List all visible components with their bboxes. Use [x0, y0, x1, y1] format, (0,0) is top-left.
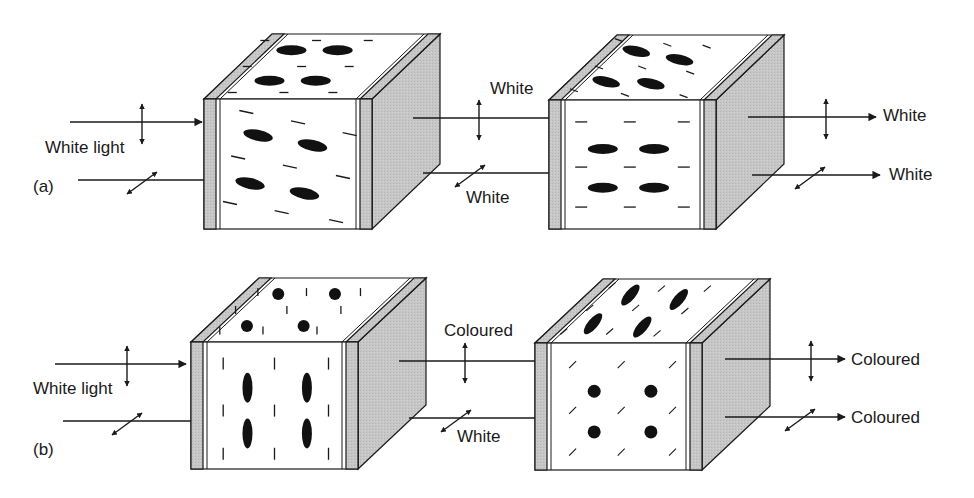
panel-b-mid-top-label: Coloured	[444, 322, 513, 339]
lc-cell-cube-b-2	[535, 279, 770, 470]
light-beam-b-2	[63, 413, 191, 435]
panel-b-output-top-label: Coloured	[851, 351, 920, 368]
front-plate-left	[535, 343, 547, 470]
panel-a-output-bottom-label: White	[889, 166, 932, 183]
panel-b-output-bottom-label: Coloured	[851, 409, 920, 426]
diagonal-polarization-icon	[455, 165, 485, 187]
panel-a-output-top-label: White	[883, 107, 926, 124]
panel-b-label: (b)	[33, 441, 54, 458]
diagonal-polarization-icon	[785, 409, 815, 431]
front-plate-right	[346, 342, 358, 469]
light-beam-a-4	[423, 165, 549, 187]
panel-b-coloured-mode	[55, 278, 845, 470]
diagonal-polarization-icon	[795, 167, 825, 189]
front-plate-left	[549, 100, 561, 229]
panel-a-label: (a)	[33, 178, 54, 195]
panel-a-input-label: White light	[45, 139, 124, 156]
front-face	[204, 99, 372, 229]
front-face	[549, 100, 716, 229]
front-plate-left	[204, 99, 216, 229]
lc-cell-cube-a-1	[204, 34, 440, 229]
panel-a-mid-top-label: White	[490, 80, 533, 97]
front-face	[535, 343, 702, 470]
front-plate-right	[360, 99, 372, 229]
lc-cell-cube-b-1	[191, 278, 426, 469]
lc-cell-cube-a-2	[549, 35, 784, 229]
diagonal-polarization-icon	[112, 413, 142, 435]
diagram-canvas	[0, 0, 974, 498]
panel-b-input-label: White light	[33, 380, 112, 397]
panel-b-mid-bottom-label: White	[457, 428, 500, 445]
front-plate-right	[690, 343, 702, 470]
light-beam-a-2	[78, 172, 204, 194]
lcd-polarization-diagram: (a) (b) White light White White White Wh…	[0, 0, 974, 498]
front-plate-left	[191, 342, 203, 469]
front-plate-right	[704, 100, 716, 229]
panel-a-mid-bottom-label: White	[466, 189, 509, 206]
diagonal-polarization-icon	[127, 172, 157, 194]
